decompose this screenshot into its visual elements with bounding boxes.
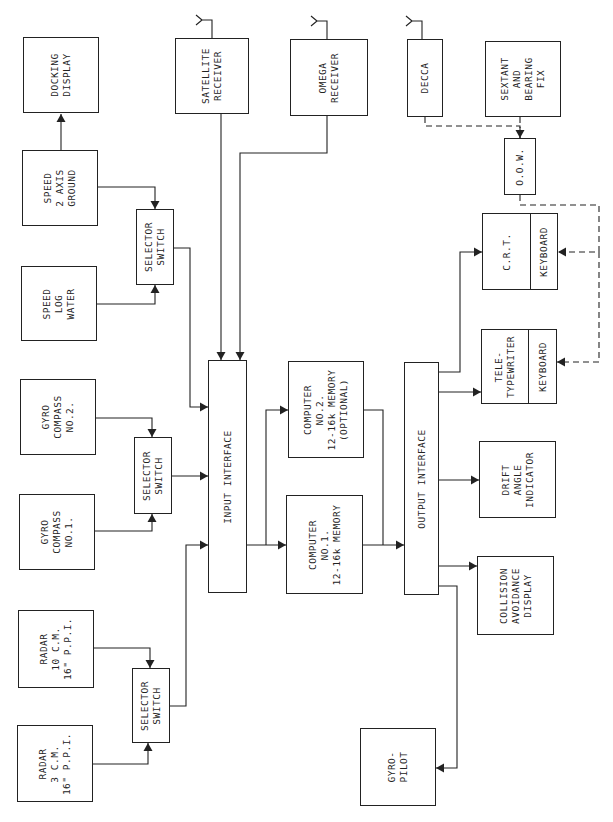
arrowhead-icon [280, 406, 288, 415]
node-computer1: COMPUTER NO.1. 12-16k MEMORY [286, 495, 363, 594]
node-docking-display: DOCKING DISPLAY [23, 37, 99, 113]
node-gyro1: GYRO COMPASS NO.1. [19, 494, 95, 570]
node-sextant: SEXTANT AND BEARING FIX [485, 41, 561, 117]
node-radar3: RADAR 3 C.M. 16" P.P.I. [17, 725, 93, 802]
crt-label: C.R.T. [501, 233, 513, 270]
teletypewriter-section: TELE- TYPEWRITER [482, 330, 529, 403]
node-gyropilot: GYRO- PILOT [360, 728, 436, 806]
node-label: SATELLITE RECEIVER [200, 48, 224, 104]
node-radar10: RADAR 10 C.M. 16" P.P.I. [18, 610, 94, 688]
arrowhead-icon [557, 358, 565, 367]
edge-output_interface-to-gyropilot [436, 586, 457, 768]
node-collision: COLLISION AVOIDANCE DISPLAY [477, 556, 554, 635]
node-label: SELECTOR SWITCH [139, 681, 163, 731]
node-satellite: SATELLITE RECEIVER [175, 38, 249, 114]
node-label: RADAR 3 C.M. 16" P.P.I. [37, 732, 73, 794]
crt-keyboard-section: KEYBOARD [531, 214, 557, 289]
node-speed-ground: SPEED 2 AXIS GROUND [22, 150, 98, 226]
antenna-icon [196, 15, 212, 38]
node-selector1: SELECTOR SWITCH [136, 209, 174, 285]
arrowhead-icon [148, 514, 157, 522]
node-input-interface: INPUT INTERFACE [208, 360, 247, 593]
teletypewriter-label: TELE- TYPEWRITER [493, 335, 517, 397]
node-label: GYRO COMPASS NO.1. [39, 510, 75, 554]
node-decca: DECCA [407, 39, 443, 117]
node-selector3: SELECTOR SWITCH [132, 668, 170, 743]
arrowhead-icon [151, 201, 160, 209]
node-label: SPEED LOG WATER [41, 288, 77, 319]
node-label: COMPUTER NO.2. 12-16k MEMORY (OPTIONAL) [302, 369, 350, 450]
edge-computer2-to-output_interface [364, 410, 383, 545]
node-label: DRIFT ANGLE INDICATOR [500, 452, 536, 508]
teletypewriter-keyboard-section: KEYBOARD [529, 330, 556, 403]
edge-speed_water-to-selector1 [97, 285, 155, 304]
node-label: GYRO COMPASS NO.2. [40, 395, 76, 439]
node-label: OMEGA RECEIVER [317, 53, 341, 103]
node-label: SPEED 2 AXIS GROUND [42, 169, 78, 206]
edge-omega-to-input_interface [240, 116, 327, 360]
arrowhead-icon [146, 660, 155, 668]
edge-oow-to-teletype_keyboard [557, 252, 599, 362]
node-gyro2: GYRO COMPASS NO.2. [20, 379, 96, 455]
arrowhead-icon [558, 248, 566, 257]
arrowhead-icon [148, 429, 157, 437]
navigation-system-block-diagram: DOCKING DISPLAYSPEED 2 AXIS GROUNDSPEED … [0, 0, 613, 822]
node-label: OUTPUT INTERFACE [416, 429, 428, 529]
node-label: SELECTOR SWITCH [143, 222, 167, 272]
keyboard-label: KEYBOARD [537, 342, 549, 392]
node-omega: OMEGA RECEIVER [290, 39, 368, 116]
edge-gyro1-to-selector2 [95, 514, 152, 531]
node-label: GYRO- PILOT [386, 751, 410, 782]
edge-input_interface-to-computer2 [266, 410, 288, 545]
node-label: SEXTANT AND BEARING FIX [499, 57, 547, 101]
edge-speed_ground-to-selector1 [98, 187, 155, 209]
node-label: COMPUTER NO.1. 12-16k MEMORY [307, 504, 343, 585]
arrowhead-icon [471, 476, 479, 485]
node-label: DOCKING DISPLAY [49, 53, 73, 97]
node-selector2: SELECTOR SWITCH [134, 437, 172, 514]
node-label: SELECTOR SWITCH [141, 451, 165, 501]
keyboard-label: KEYBOARD [538, 227, 550, 277]
node-oow: O.O.W. [504, 138, 536, 195]
node-label: INPUT INTERFACE [222, 430, 234, 523]
arrowhead-icon [57, 114, 66, 122]
arrowhead-icon [200, 541, 208, 550]
edge-gyro2-to-selector2 [96, 418, 152, 437]
edge-radar3-to-selector3 [93, 743, 148, 764]
arrowhead-icon [473, 388, 481, 397]
edge-output_interface-to-crt [439, 252, 482, 372]
node-output-interface: OUTPUT INTERFACE [404, 362, 439, 595]
arrowhead-icon [144, 743, 153, 751]
arrowhead-icon [200, 472, 208, 481]
node-drift: DRIFT ANGLE INDICATOR [479, 441, 556, 518]
arrowhead-icon [200, 403, 208, 412]
arrowhead-icon [217, 352, 226, 360]
node-teletypewriter: TELE- TYPEWRITERKEYBOARD [481, 329, 557, 404]
arrowhead-icon [436, 764, 444, 773]
crt-section: C.R.T. [483, 214, 531, 289]
node-label: DECCA [419, 62, 431, 93]
node-speed-water: SPEED LOG WATER [21, 266, 97, 341]
arrowhead-icon [469, 562, 477, 571]
antenna-icon [406, 16, 422, 39]
edge-selector1-to-input_interface [174, 248, 208, 407]
node-computer2: COMPUTER NO.2. 12-16k MEMORY (OPTIONAL) [288, 361, 364, 458]
arrowhead-icon [474, 248, 482, 257]
edge-decca-to-oow [425, 117, 520, 138]
node-label: RADAR 10 C.M. 16" P.P.I. [38, 618, 74, 680]
edge-radar10-to-selector3 [94, 648, 150, 668]
node-label: COLLISION AVOIDANCE DISPLAY [498, 568, 534, 624]
arrowhead-icon [151, 285, 160, 293]
node-crt: C.R.T.KEYBOARD [482, 213, 558, 290]
arrowhead-icon [236, 352, 245, 360]
edge-selector3-to-input_interface [170, 545, 208, 706]
arrowhead-icon [278, 541, 286, 550]
antenna-icon [311, 16, 327, 39]
arrowhead-icon [396, 541, 404, 550]
node-label: O.O.W. [514, 148, 526, 185]
